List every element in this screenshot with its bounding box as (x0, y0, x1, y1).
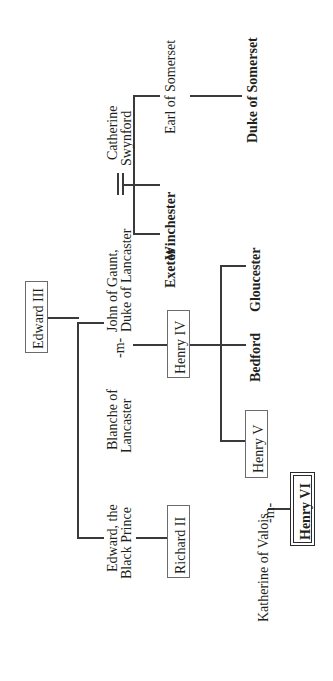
edge-to-henry5 (220, 440, 246, 442)
node-earl-of-somerset: Earl of Somerset (163, 40, 179, 134)
node-richard-ii[interactable]: Richard II (167, 505, 190, 578)
edge-edward3-stem (47, 317, 79, 319)
node-winchester: Winchester (163, 192, 179, 260)
edge-to-earl-somerset (133, 95, 160, 97)
marriage-bar-1 (117, 173, 119, 195)
edge-henry4-trunk (220, 265, 222, 442)
node-henry-iv-label: Henry IV (173, 321, 189, 374)
node-edward-iii[interactable]: Edward III (25, 281, 48, 353)
edge-gaunt-blanche-marriage (133, 344, 169, 346)
edge-blackprince-richard2 (136, 537, 168, 539)
node-john-of-gaunt-line2: Duke of Lancaster (119, 229, 135, 332)
node-henry-v[interactable]: Henry V (245, 410, 268, 478)
marriage-label-gaunt-blanche: -m- (112, 338, 128, 358)
node-henry-vi-label: Henry VI (298, 483, 314, 540)
family-tree-diagram: Edward III Henry IV Henry V Henry VI Ric… (0, 0, 333, 681)
node-henry-v-label: Henry V (251, 425, 267, 473)
node-black-prince-line2: Black Prince (119, 507, 135, 579)
edge-to-john-of-gaunt (77, 322, 104, 324)
edge-to-black-prince (77, 537, 104, 539)
node-catherine-swynford-line2: Swynford (119, 111, 135, 166)
edge-earl-duke-somerset (190, 95, 242, 97)
node-richard-ii-label: Richard II (173, 517, 189, 574)
edge-to-bedford (220, 344, 246, 346)
node-henry-vi[interactable]: Henry VI (290, 472, 315, 546)
node-henry-iv[interactable]: Henry IV (167, 310, 190, 378)
node-edward-iii-label: Edward III (31, 288, 47, 349)
edge-to-winchester (133, 184, 160, 186)
node-gloucester: Gloucester (248, 247, 264, 312)
edge-edward3-trunk (77, 322, 79, 539)
node-duke-of-somerset: Duke of Somerset (245, 37, 261, 143)
node-katherine-valois: Katherine of Valois (256, 513, 272, 622)
edge-henry4-stem (190, 344, 222, 346)
marriage-label-henry5-katherine: -m- (262, 503, 278, 523)
node-bedford: Bedford (248, 333, 264, 382)
edge-to-exeter (133, 233, 160, 235)
edge-to-gloucester (220, 265, 246, 267)
node-blanche-line2: Lancaster (119, 399, 135, 453)
